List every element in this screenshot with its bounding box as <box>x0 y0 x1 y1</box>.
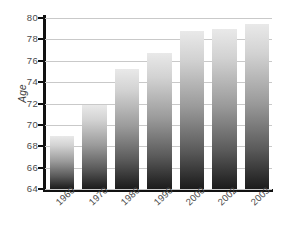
x-axis-tick-labels: 1960197019801990200020022003 <box>46 192 273 242</box>
bar <box>50 136 75 189</box>
y-axis-tick-mark <box>38 60 44 62</box>
bar <box>245 24 270 189</box>
y-axis-tick-label: 78 <box>4 33 38 44</box>
y-axis-tick-mark <box>38 38 44 40</box>
bar <box>180 31 205 189</box>
y-axis-tick-mark <box>38 124 44 126</box>
bar-chart: Age 646668707274767880 19601970198019902… <box>0 0 284 245</box>
y-axis-tick-labels: 646668707274767880 <box>0 0 38 245</box>
y-axis-tick-label: 66 <box>4 162 38 173</box>
bar <box>147 53 172 189</box>
y-axis-tick-mark <box>38 103 44 105</box>
y-axis-tick-mark <box>38 188 44 190</box>
y-axis-tick-label: 70 <box>4 119 38 130</box>
y-axis-tick-label: 76 <box>4 55 38 66</box>
gridline <box>45 189 272 190</box>
bars-layer <box>46 18 273 189</box>
y-axis-tick-mark <box>38 167 44 169</box>
y-axis-tick-mark <box>38 81 44 83</box>
y-axis-tick-label: 68 <box>4 140 38 151</box>
y-axis-tick-label: 80 <box>4 12 38 23</box>
bar <box>82 105 107 189</box>
y-axis-tick-label: 72 <box>4 98 38 109</box>
y-axis-tick-mark <box>38 17 44 19</box>
y-axis-tick-label: 64 <box>4 183 38 194</box>
bar <box>212 29 237 189</box>
bar <box>115 69 140 189</box>
y-axis-tick-label: 74 <box>4 76 38 87</box>
y-axis-tick-mark <box>38 145 44 147</box>
